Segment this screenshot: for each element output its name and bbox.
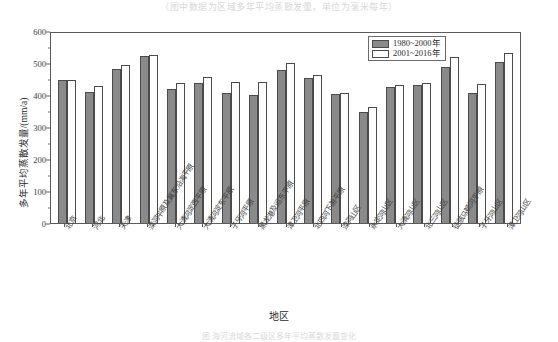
figure-container: 多年平均蒸散发量/(mm/a) 0100200300400500600 北京河北… [0,14,558,342]
legend-item-1: 2001~2016年 [372,49,441,58]
bar-group [381,33,408,223]
y-tick-label: 400 [33,92,46,101]
bar [340,93,349,223]
y-tick-label: 600 [33,28,46,37]
bar [258,82,267,223]
bar-group [108,33,135,223]
legend-swatch-icon-0 [372,40,389,48]
bar [67,80,76,223]
bar-group [80,33,107,223]
top-cropped-text: （图中数据为区域多年平均蒸散发量，单位为毫米每年） [0,0,558,14]
bar [94,86,103,223]
bar [231,82,240,223]
y-axis: 多年平均蒸散发量/(mm/a) 0100200300400500600 [0,32,50,224]
bar [85,92,94,223]
bar [313,75,322,223]
bar-group [436,33,463,223]
bar [112,69,121,223]
y-tick-label: 300 [33,124,46,133]
bar-group [299,33,326,223]
bar [203,77,212,223]
y-tick-label: 100 [33,188,46,197]
bar-group [409,33,436,223]
bar [477,84,486,223]
chart-legend: 1980~2000年 2001~2016年 [368,36,446,61]
bar [58,80,67,223]
x-axis-label: 地区 [0,308,558,323]
bar [368,107,377,223]
bar [395,85,404,223]
bar [422,83,431,223]
bar-group [245,33,272,223]
bar-group [491,33,518,223]
bar [450,57,459,223]
y-tick-label: 200 [33,156,46,165]
bar [504,53,513,223]
bar [140,56,149,223]
legend-item-0: 1980~2000年 [372,39,441,48]
bar [149,55,158,223]
figure-caption: 图 海河流域各二级区多年平均蒸散发量变化 [0,330,558,341]
legend-label-1: 2001~2016年 [393,49,441,58]
bar-group [53,33,80,223]
y-axis-label: 多年平均蒸散发量/(mm/a) [16,78,30,228]
y-tick-label: 500 [33,60,46,69]
bar [176,83,185,223]
bar-group [354,33,381,223]
legend-label-0: 1980~2000年 [393,39,441,48]
bar-group [135,33,162,223]
legend-swatch-icon-1 [372,50,389,58]
bar [121,65,130,223]
bar [286,63,295,223]
